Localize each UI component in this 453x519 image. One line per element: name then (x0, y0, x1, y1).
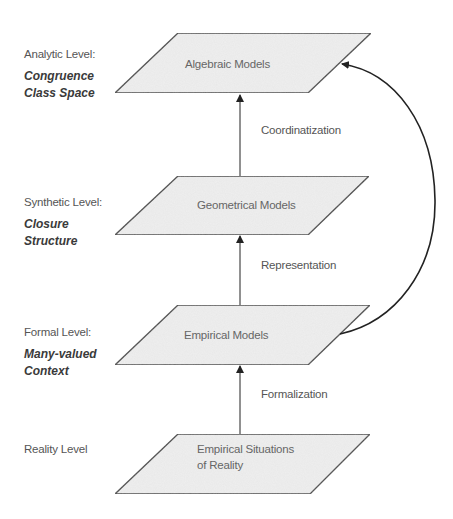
node-text-empirical-situations-1: Empirical Situations (197, 441, 294, 458)
arrow-curved-empirical-to-algebraic (340, 64, 435, 334)
concept-label-formal-2: Context (24, 363, 69, 380)
level-label-formal: Formal Level: (24, 326, 91, 338)
concept-label-synthetic-1: Closure (24, 216, 69, 233)
concept-label-analytic-2: Class Space (24, 85, 95, 102)
concept-label-formal-1: Many-valued (24, 346, 97, 363)
edge-label-formalization: Formalization (261, 388, 327, 400)
level-label-analytic: Analytic Level: (24, 48, 95, 60)
concept-label-analytic-1: Congruence (24, 68, 94, 85)
node-text-empirical-situations-2: of Reality (197, 457, 243, 474)
node-text-geometrical-models: Geometrical Models (197, 197, 296, 214)
level-label-synthetic: Synthetic Level: (24, 196, 102, 208)
concept-label-synthetic-2: Structure (24, 233, 77, 250)
edge-label-coordinatization: Coordinatization (261, 124, 341, 136)
node-text-algebraic-models: Algebraic Models (185, 56, 270, 73)
edge-label-representation: Representation (261, 259, 336, 271)
node-text-empirical-models: Empirical Models (184, 327, 268, 344)
level-label-reality: Reality Level (24, 443, 87, 455)
